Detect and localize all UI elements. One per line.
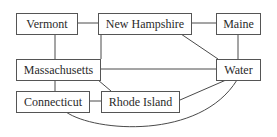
edge-massachusetts-rhode-island [98, 80, 111, 91]
node-new-hampshire: New Hampshire [98, 13, 192, 35]
node-connecticut: Connecticut [16, 91, 90, 113]
adjacency-graph-diagram: Vermont New Hampshire Maine Massachusett… [0, 0, 277, 137]
edge-rhode-island-water [180, 80, 226, 100]
node-massachusetts: Massachusetts [16, 59, 101, 81]
node-vermont: Vermont [16, 13, 78, 35]
node-water: Water [216, 59, 261, 81]
edge-new-hampshire-water [181, 34, 218, 59]
node-rhode-island: Rhode Island [101, 91, 180, 113]
node-maine: Maine [216, 13, 261, 35]
